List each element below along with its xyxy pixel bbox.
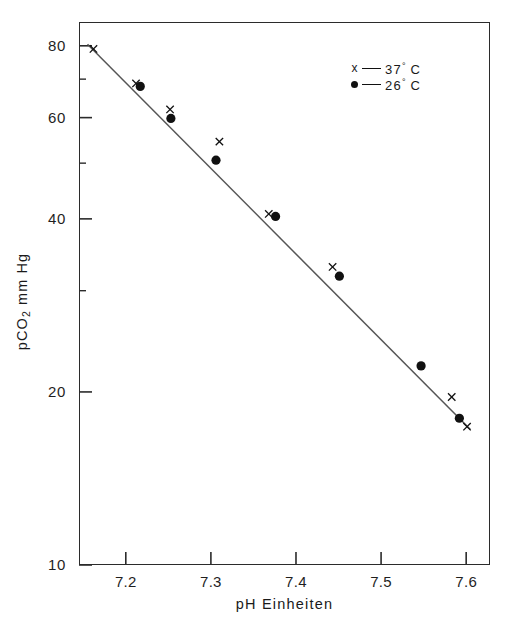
y-axis-title: pCO2 mm Hg bbox=[14, 216, 33, 386]
y-axis-title-post: mm Hg bbox=[14, 253, 30, 310]
legend-item: 26° C bbox=[349, 76, 421, 92]
y-tick-label: 80 bbox=[22, 37, 66, 54]
y-tick-label: 60 bbox=[22, 109, 66, 126]
x-tick-label: 7.6 bbox=[436, 573, 496, 590]
y-axis-title-subscript: 2 bbox=[20, 310, 32, 317]
legend-circle-marker bbox=[349, 76, 360, 92]
x-tick-label: 7.3 bbox=[181, 573, 241, 590]
x-tick-label: 7.4 bbox=[266, 573, 326, 590]
x-tick-label: 7.2 bbox=[96, 573, 156, 590]
chart-figure: 1020406080 7.27.37.47.57.6 pCO2 mm Hg pH… bbox=[0, 0, 508, 625]
legend-dash bbox=[362, 68, 381, 69]
axis-ticks bbox=[79, 46, 466, 565]
y-axis-title-pre: pCO bbox=[14, 317, 30, 350]
x-axis-title: pH Einheiten bbox=[79, 596, 490, 612]
x-tick-label: 7.5 bbox=[351, 573, 411, 590]
chart-legend: x37° C26° C bbox=[349, 60, 421, 92]
regression-line bbox=[88, 44, 471, 429]
legend-label: 26° C bbox=[385, 74, 421, 94]
legend-dash bbox=[362, 84, 381, 85]
legend-x-marker: x bbox=[349, 60, 360, 76]
plot-canvas bbox=[0, 0, 508, 625]
y-tick-label: 10 bbox=[22, 556, 66, 573]
